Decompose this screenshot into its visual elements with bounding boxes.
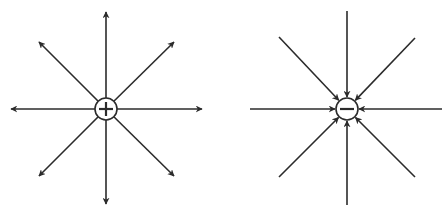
field-line-up-left xyxy=(39,42,98,101)
field-line-down-left xyxy=(39,117,98,176)
field-line-up-right xyxy=(355,38,415,100)
field-line-up-left xyxy=(279,37,339,100)
field-line-down-right xyxy=(355,117,415,177)
negative-charge-field xyxy=(250,11,442,205)
field-line-up-right xyxy=(114,42,174,101)
positive-charge-field xyxy=(11,12,202,204)
field-line-down-right xyxy=(114,117,174,176)
field-lines-diagram xyxy=(0,0,448,216)
field-line-down-left xyxy=(279,117,339,177)
